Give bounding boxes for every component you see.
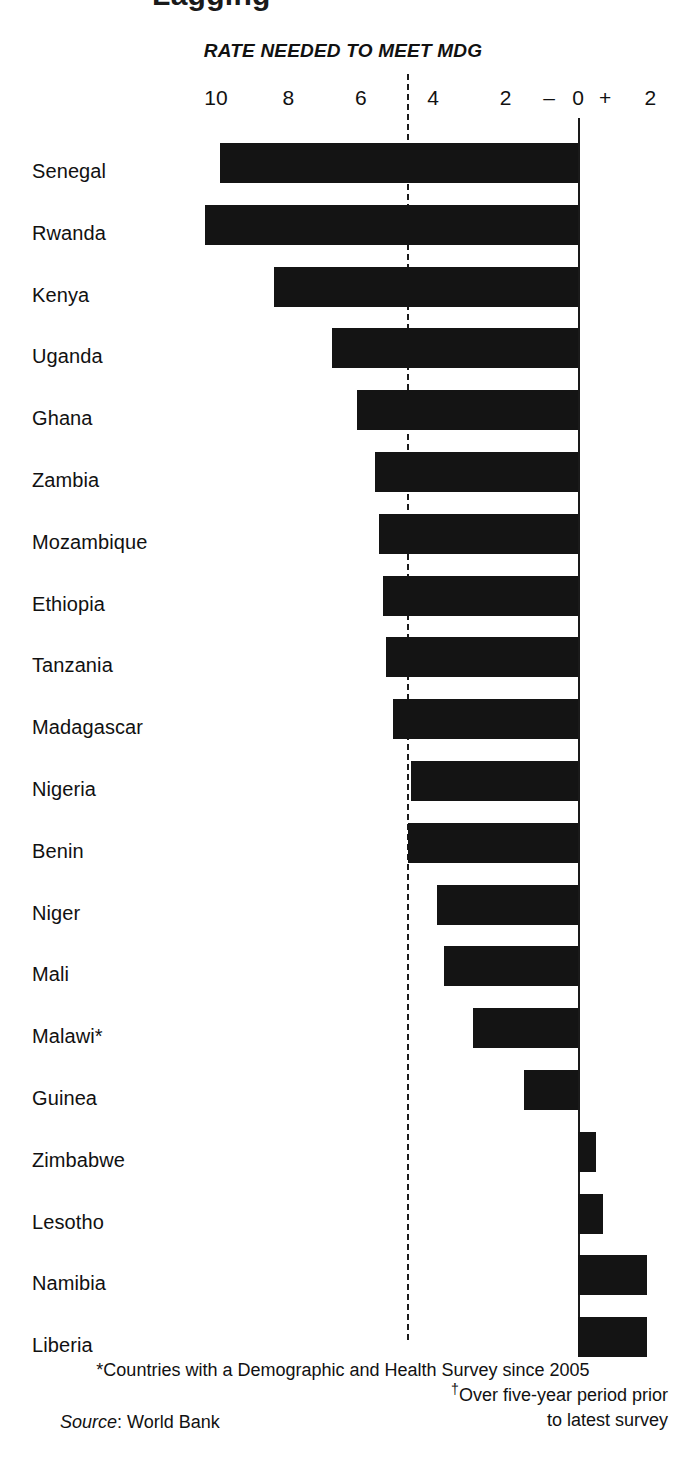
bar-niger <box>437 885 578 925</box>
bar-label-ethiopia: Ethiopia <box>32 592 105 615</box>
bar-nigeria <box>411 761 578 801</box>
bar-kenya <box>274 267 578 307</box>
bar-label-tanzania: Tanzania <box>32 654 113 677</box>
footnote-dagger: †Over five-year period prior to latest s… <box>338 1383 668 1433</box>
bar-liberia <box>578 1317 647 1357</box>
footnote-star: *Countries with a Demographic and Health… <box>0 1358 686 1383</box>
bar-row: Senegal <box>0 140 686 202</box>
bar-label-guinea: Guinea <box>32 1087 97 1110</box>
bar-row: Ghana <box>0 387 686 449</box>
bar-label-ghana: Ghana <box>32 407 93 430</box>
bar-label-madagascar: Madagascar <box>32 716 143 739</box>
bar-label-liberia: Liberia <box>32 1334 93 1357</box>
bar-uganda <box>332 328 578 368</box>
x-tick-3: 4 <box>413 86 453 110</box>
bar-lesotho <box>578 1194 603 1234</box>
footnote-dagger-text1: Over five-year period prior <box>459 1385 668 1405</box>
bar-rwanda <box>205 205 578 245</box>
bar-row: Zimbabwe <box>0 1129 686 1191</box>
bar-mozambique <box>379 514 578 554</box>
bar-label-lesotho: Lesotho <box>32 1210 104 1233</box>
footnotes-block: *Countries with a Demographic and Health… <box>0 1358 686 1437</box>
bar-tanzania <box>386 637 578 677</box>
bar-label-senegal: Senegal <box>32 160 106 183</box>
x-tick-7: + <box>585 86 625 110</box>
bar-row: Niger <box>0 882 686 944</box>
bar-row: Uganda <box>0 325 686 387</box>
footnote-dagger-line2: to latest survey <box>338 1408 668 1433</box>
bar-label-benin: Benin <box>32 839 84 862</box>
bar-guinea <box>524 1070 578 1110</box>
bar-ghana <box>357 390 578 430</box>
source-separator: : <box>117 1412 127 1432</box>
bar-row: Mozambique <box>0 511 686 573</box>
bar-label-namibia: Namibia <box>32 1272 106 1295</box>
bar-madagascar <box>393 699 578 739</box>
bar-row: Zambia <box>0 449 686 511</box>
bar-row: Lesotho <box>0 1191 686 1253</box>
bar-namibia <box>578 1255 647 1295</box>
bar-row: Nigeria <box>0 758 686 820</box>
bar-label-malawi: Malawi* <box>32 1025 103 1048</box>
bar-zambia <box>375 452 578 492</box>
bar-row: Namibia <box>0 1252 686 1314</box>
bar-label-zambia: Zambia <box>32 469 99 492</box>
x-tick-8: 2 <box>630 86 670 110</box>
bar-label-niger: Niger <box>32 901 80 924</box>
footnote-dagger-line1: †Over five-year period prior <box>338 1383 668 1408</box>
bar-row: Ethiopia <box>0 573 686 635</box>
bar-label-mali: Mali <box>32 963 69 986</box>
x-tick-1: 8 <box>268 86 308 110</box>
bar-zimbabwe <box>578 1132 596 1172</box>
bar-label-mozambique: Mozambique <box>32 530 148 553</box>
bar-chart-plot: 108642–0+2 SenegalRwandaKenyaUgandaGhana… <box>0 0 686 1350</box>
bar-row: Tanzania <box>0 634 686 696</box>
dagger-marker: † <box>451 1381 459 1397</box>
bar-row: Madagascar <box>0 696 686 758</box>
bar-label-kenya: Kenya <box>32 283 89 306</box>
source-value: World Bank <box>127 1412 220 1432</box>
bar-row: Benin <box>0 820 686 882</box>
source-credit: Source: World Bank <box>60 1410 220 1435</box>
bar-malawi <box>473 1008 578 1048</box>
bar-row: Rwanda <box>0 202 686 264</box>
bar-row: Guinea <box>0 1067 686 1129</box>
bar-label-rwanda: Rwanda <box>32 221 106 244</box>
x-tick-4: 2 <box>486 86 526 110</box>
x-tick-0: 10 <box>196 86 236 110</box>
bar-senegal <box>220 143 578 183</box>
bar-label-uganda: Uganda <box>32 345 103 368</box>
x-tick-2: 6 <box>341 86 381 110</box>
bar-ethiopia <box>383 576 578 616</box>
source-label: Source <box>60 1412 117 1432</box>
bar-label-nigeria: Nigeria <box>32 778 96 801</box>
bar-row: Mali <box>0 943 686 1005</box>
footnote-row: †Over five-year period prior to latest s… <box>0 1383 686 1437</box>
bar-row: Kenya <box>0 264 686 326</box>
bar-benin <box>408 823 578 863</box>
bar-row: Malawi* <box>0 1005 686 1067</box>
bar-mali <box>444 946 578 986</box>
bar-label-zimbabwe: Zimbabwe <box>32 1148 125 1171</box>
